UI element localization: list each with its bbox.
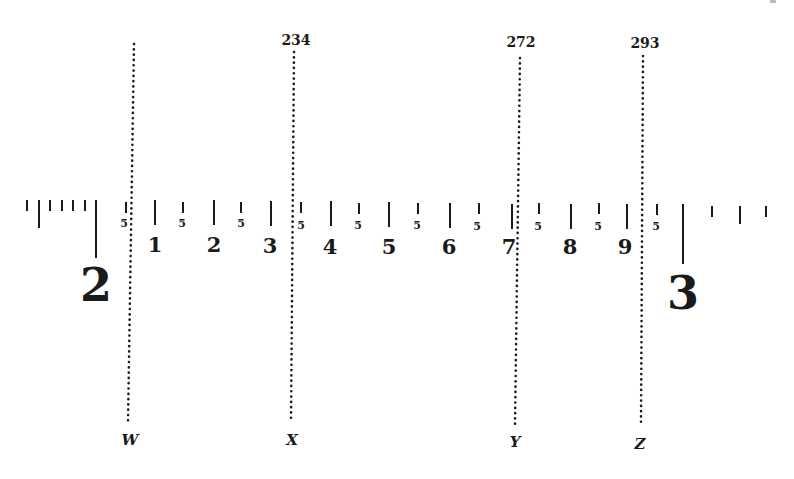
major-label-3: 3	[667, 270, 699, 316]
half-tick-label: 5	[413, 220, 421, 231]
half-tick-label: 5	[652, 221, 660, 232]
marker-value-y: 272	[506, 35, 535, 49]
tick-label-5: 5	[382, 236, 397, 257]
tick-4	[330, 201, 332, 226]
major-label-2: 2	[80, 262, 112, 308]
tick	[84, 200, 86, 211]
tick-label-8: 8	[563, 236, 578, 257]
tick-3	[270, 201, 272, 226]
tick-label-6: 6	[442, 236, 457, 257]
tick	[711, 206, 713, 217]
tick-label-4: 4	[323, 236, 338, 257]
tick	[765, 206, 767, 217]
half-tick-label: 5	[534, 221, 542, 232]
half-tick	[598, 203, 600, 214]
half-tick-label: 5	[237, 218, 245, 229]
tick	[739, 206, 741, 224]
half-tick	[182, 202, 184, 213]
marker-letter-y: Y	[510, 435, 521, 450]
marker-line-w	[128, 44, 134, 422]
tick-6	[449, 203, 451, 228]
major-tick-2	[95, 200, 97, 258]
tick-2	[213, 200, 215, 225]
tick-label-2: 2	[207, 234, 222, 255]
half-tick	[125, 202, 127, 213]
half-tick	[240, 202, 242, 213]
tick	[38, 200, 40, 228]
half-tick-label: 5	[297, 220, 305, 231]
half-tick	[300, 202, 302, 213]
tick-label-7: 7	[502, 236, 517, 257]
tick-9	[626, 204, 628, 229]
tick-8	[570, 204, 572, 229]
tick-5	[388, 202, 390, 227]
tick-1	[154, 200, 156, 225]
marker-letter-x: X	[286, 433, 298, 448]
half-tick-label: 5	[178, 218, 186, 229]
tick	[72, 200, 74, 211]
half-tick-label: 5	[473, 221, 481, 232]
tick	[26, 200, 28, 211]
half-tick	[656, 204, 658, 215]
tick-label-9: 9	[618, 236, 633, 257]
half-tick-label: 5	[120, 218, 128, 229]
tick-label-3: 3	[263, 235, 278, 256]
half-tick-label: 5	[354, 220, 362, 231]
marker-letter-w: W	[122, 433, 139, 448]
half-tick	[478, 203, 480, 214]
marker-lines	[0, 0, 794, 479]
major-tick-3	[682, 204, 684, 264]
tick	[61, 200, 63, 211]
marker-line-x	[291, 52, 294, 422]
marker-line-z	[641, 56, 643, 424]
marker-value-z: 293	[630, 36, 659, 50]
half-tick	[358, 203, 360, 214]
marker-letter-z: Z	[635, 437, 646, 452]
tick	[49, 200, 51, 211]
tick-7	[511, 204, 513, 229]
tick-label-1: 1	[148, 234, 163, 255]
marker-value-x: 234	[281, 33, 310, 47]
half-tick-label: 5	[594, 221, 602, 232]
half-tick	[417, 203, 419, 214]
half-tick	[538, 203, 540, 214]
